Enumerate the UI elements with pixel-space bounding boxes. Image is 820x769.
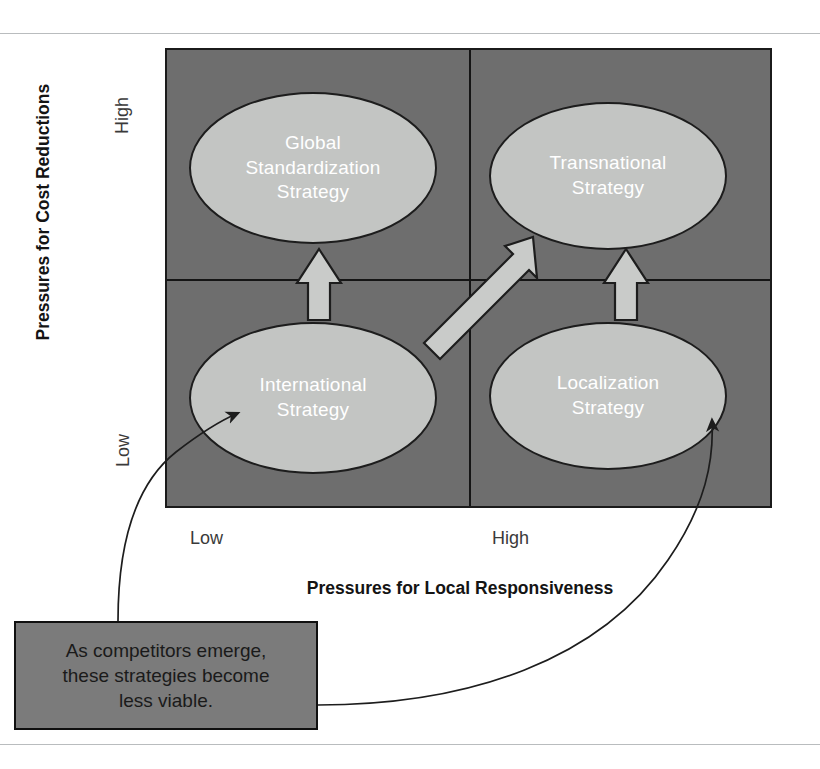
- x-axis-tick-high: High: [492, 528, 529, 549]
- y-axis-tick-low: Low: [113, 434, 134, 467]
- arrow-diagonal-international-to-transnational: [424, 237, 537, 359]
- figure-canvas: Pressures for Cost Reductions High Low G…: [0, 0, 820, 769]
- strategy-matrix: Global Standardization Strategy Transnat…: [165, 48, 772, 508]
- callout-text: As competitors emerge, these strategies …: [62, 638, 269, 713]
- y-axis-title: Pressures for Cost Reductions: [33, 91, 54, 341]
- arrow-up-localization-to-transnational: [604, 249, 648, 320]
- callout-line-3: less viable.: [119, 690, 213, 711]
- callout-box[interactable]: As competitors emerge, these strategies …: [14, 621, 318, 730]
- callout-line-2: these strategies become: [62, 665, 269, 686]
- x-axis-tick-low: Low: [190, 528, 223, 549]
- y-axis-tick-high: High: [112, 97, 133, 134]
- page-rule-bottom: [0, 744, 820, 745]
- x-axis-title: Pressures for Local Responsiveness: [0, 578, 820, 599]
- page-rule-top: [0, 33, 820, 34]
- arrows-layer: [167, 50, 774, 510]
- callout-line-1: As competitors emerge,: [66, 640, 267, 661]
- arrow-up-international-to-global-standardization: [297, 249, 341, 320]
